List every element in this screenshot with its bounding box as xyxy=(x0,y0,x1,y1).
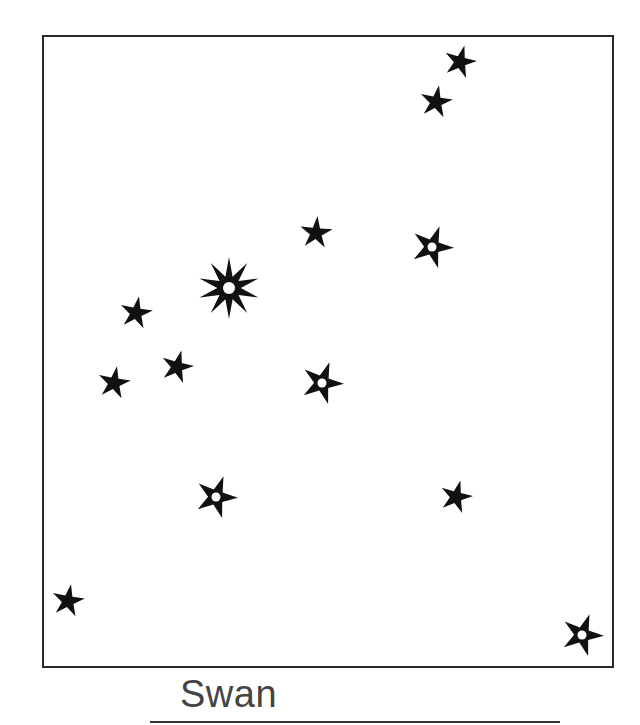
star-icon xyxy=(163,351,194,383)
star-icon xyxy=(300,216,332,248)
ringed-star-icon xyxy=(198,476,238,518)
star-icon xyxy=(421,85,453,117)
star-icon xyxy=(99,366,131,398)
constellation-title: Swan xyxy=(180,675,277,713)
star-icon xyxy=(446,46,477,78)
bright-star-icon xyxy=(200,257,259,319)
title-underline xyxy=(150,721,560,723)
star-icon xyxy=(53,584,85,616)
ringed-star-icon xyxy=(414,226,454,268)
star-field xyxy=(0,0,640,725)
star-icon xyxy=(121,296,153,328)
ringed-star-icon xyxy=(564,614,604,656)
ringed-star-icon xyxy=(304,362,344,404)
star-icon xyxy=(442,481,473,513)
